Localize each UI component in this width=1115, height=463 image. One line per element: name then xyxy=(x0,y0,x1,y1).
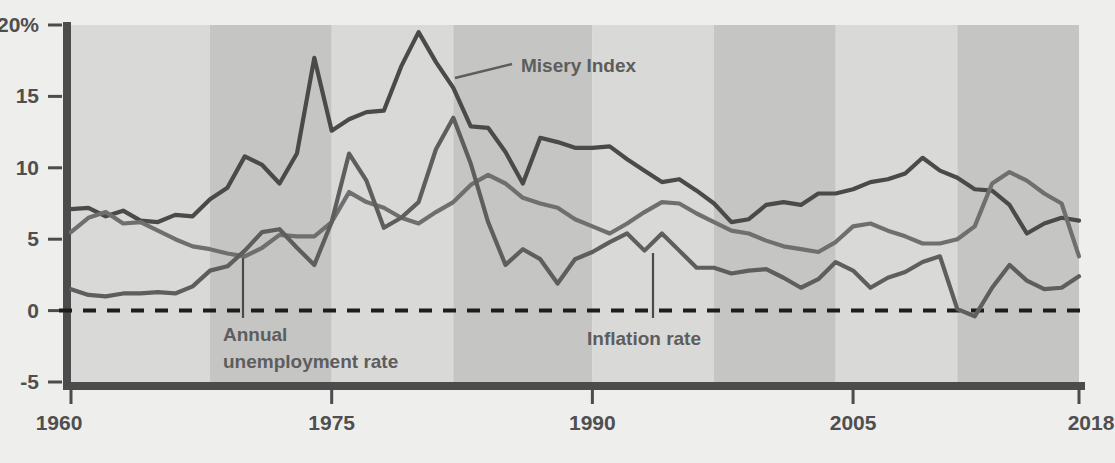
unemployment-annotation-line2: unemployment rate xyxy=(223,351,398,372)
y-axis-ticks: 20%151050-5 xyxy=(0,13,62,393)
misery-index-chart: 20%151050-519601975199020052018Misery In… xyxy=(0,0,1115,463)
x-tick-label-4: 2018 xyxy=(1068,411,1115,434)
background-band-0 xyxy=(71,25,210,382)
x-axis-line xyxy=(63,382,1085,390)
y-tick-label-2: 10 xyxy=(16,156,39,179)
chart-canvas: 20%151050-519601975199020052018Misery In… xyxy=(0,0,1115,463)
y-tick-label-1: 15 xyxy=(16,84,40,107)
x-axis-ticks: 19601975199020052018 xyxy=(36,390,1115,434)
y-tick-label-5: -5 xyxy=(20,370,39,393)
y-axis-line xyxy=(63,22,71,390)
x-tick-label-2: 1990 xyxy=(569,411,616,434)
background-band-6 xyxy=(836,25,958,382)
unemployment-annotation-line1: Annual xyxy=(223,324,287,345)
x-tick-label-3: 2005 xyxy=(830,411,877,434)
background-band-3 xyxy=(453,25,592,382)
y-tick-label-0: 20% xyxy=(0,13,39,36)
misery-index-annotation: Misery Index xyxy=(521,55,637,76)
inflation-annotation: Inflation rate xyxy=(587,328,701,349)
y-tick-label-4: 0 xyxy=(27,299,39,322)
x-tick-label-1: 1975 xyxy=(308,411,355,434)
background-band-2 xyxy=(332,25,454,382)
x-tick-label-0: 1960 xyxy=(36,411,83,434)
y-tick-label-3: 5 xyxy=(27,227,39,250)
